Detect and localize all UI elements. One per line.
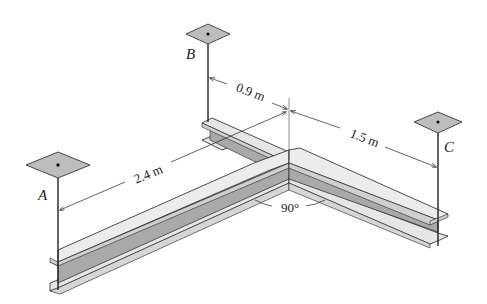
angle-90: 90° bbox=[255, 200, 325, 215]
beam-right bbox=[289, 148, 448, 248]
support-label-a: A bbox=[37, 187, 48, 203]
support-label-b: B bbox=[186, 46, 195, 62]
ceiling-plate-c bbox=[414, 112, 462, 133]
support-label-c: C bbox=[444, 139, 455, 155]
beam-diagram: 0.9 m 2.4 m 1.5 m 90° B A C bbox=[0, 0, 487, 304]
beam-left bbox=[50, 150, 289, 294]
angle-label-90: 90° bbox=[281, 200, 299, 215]
ceiling-plate-a bbox=[26, 152, 90, 178]
ceiling-plate-b bbox=[186, 24, 230, 44]
dimension-label-1-5m: 1.5 m bbox=[348, 125, 381, 150]
dimension-label-0-9m: 0.9 m bbox=[234, 79, 267, 104]
dimension-0-9m: 0.9 m bbox=[210, 78, 287, 109]
dimension-label-2-4m: 2.4 m bbox=[132, 161, 165, 186]
